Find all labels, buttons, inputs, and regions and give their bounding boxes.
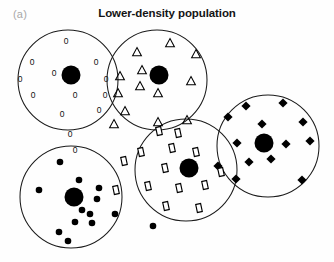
figure-container: (a) Lower-density population 00000000000… (0, 0, 334, 262)
marker-diamond (281, 139, 290, 148)
marker-dot (56, 229, 63, 236)
marker-dot (36, 187, 43, 194)
marker-dot (94, 196, 101, 203)
hub-node-cluster-diamond (255, 134, 274, 153)
marker-rectangle (156, 126, 163, 135)
marker-zero: 0 (104, 74, 109, 84)
marker-diamond (223, 112, 232, 121)
marker-dot (87, 211, 94, 218)
marker-rectangle (196, 203, 203, 212)
marker-dot (65, 238, 72, 245)
marker-zero: 0 (52, 68, 57, 78)
marker-triangle (110, 120, 119, 128)
marker-diamond (244, 157, 253, 166)
marker-rectangle (176, 183, 183, 192)
marker-rectangle (162, 163, 169, 172)
marker-diamond (241, 101, 250, 110)
marker-rectangle (113, 185, 120, 194)
marker-zero: 0 (73, 145, 78, 155)
cluster-hub-nodes-layer (62, 66, 274, 207)
cluster-scatter-plot: 0000000000000 (0, 0, 334, 262)
marker-triangle (138, 66, 147, 74)
hub-node-cluster-zero (62, 66, 81, 85)
marker-diamond (298, 117, 307, 126)
marker-rectangle (218, 167, 225, 176)
marker-dot (72, 219, 79, 226)
marker-dot (57, 159, 64, 166)
marker-diamond (305, 136, 314, 145)
hub-node-cluster-triangle (150, 66, 169, 85)
marker-zero: 0 (30, 57, 35, 67)
marker-dot (150, 223, 157, 230)
marker-dot (96, 185, 103, 192)
marker-dot (76, 177, 83, 184)
marker-triangle (116, 72, 125, 80)
marker-zero: 0 (103, 90, 108, 100)
marker-triangle (114, 89, 123, 97)
marker-rectangle (121, 156, 128, 165)
marker-zero: 0 (97, 105, 102, 115)
marker-rectangle (138, 147, 145, 156)
cluster-circles-layer (18, 30, 319, 248)
marker-triangle (136, 82, 145, 90)
marker-triangle (166, 39, 175, 47)
marker-dot (112, 211, 119, 218)
marker-zero: 0 (64, 36, 69, 46)
marker-rectangle (175, 128, 182, 137)
marker-dot (79, 207, 86, 214)
marker-triangle (154, 118, 163, 126)
marker-rectangle (193, 147, 200, 156)
marker-triangle (154, 89, 163, 97)
hub-node-cluster-rectangle (180, 159, 199, 178)
marker-diamond (232, 138, 241, 147)
marker-zero: 0 (18, 74, 23, 84)
marker-rectangle (202, 180, 209, 189)
marker-diamond (257, 119, 266, 128)
marker-diamond (297, 175, 306, 184)
marker-rectangle (169, 143, 176, 152)
marker-zero: 0 (68, 129, 73, 139)
marker-zero: 0 (60, 109, 65, 119)
marker-diamond (266, 154, 275, 163)
marker-rectangle (145, 181, 152, 190)
hub-node-cluster-filled-dot (65, 188, 84, 207)
marker-zero: 0 (73, 90, 78, 100)
marker-triangle (133, 48, 142, 56)
marker-zero: 0 (94, 57, 99, 67)
marker-triangle (187, 77, 196, 85)
marker-triangle (121, 107, 130, 115)
marker-diamond (278, 98, 287, 107)
marker-zero: 0 (31, 90, 36, 100)
marker-dot (89, 220, 96, 227)
marker-rectangle (163, 201, 170, 210)
